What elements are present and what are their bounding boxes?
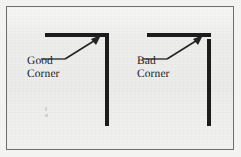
figure-frame: Good Corner Bad Corner <box>6 6 234 150</box>
scan-artifact-mark <box>45 114 48 117</box>
scan-artifact-mark <box>45 107 47 111</box>
good-corner-label: Good Corner <box>27 55 60 80</box>
corner-quality-figure: Good Corner Bad Corner <box>0 0 241 157</box>
bad-corner-label: Bad Corner <box>137 55 170 80</box>
